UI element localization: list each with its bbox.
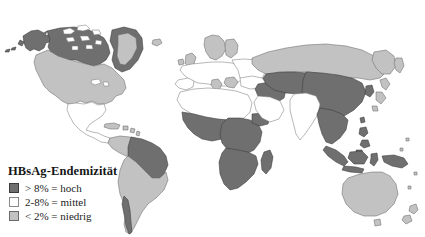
region-tasmania (374, 219, 381, 226)
region-new-zealand (402, 204, 418, 224)
legend-item-hoch: > 8% = hoch (6, 181, 156, 194)
region-scandinavia (204, 35, 226, 60)
endemicity-map-figure: HBsAg-Endemizität > 8% = hoch 2-8% = mit… (0, 0, 425, 237)
region-india (290, 93, 320, 140)
legend-item-mittel: 2-8% = mittel (6, 195, 156, 208)
region-aleutians (5, 47, 16, 52)
legend-swatch-mittel (9, 197, 19, 207)
region-southern-africa (219, 148, 258, 190)
region-iberia (175, 78, 194, 90)
legend-label-mittel: 2-8% = mittel (25, 196, 86, 208)
legend-label-hoch: > 8% = hoch (25, 182, 82, 194)
region-madagascar (261, 150, 273, 174)
legend: HBsAg-Endemizität > 8% = hoch 2-8% = mit… (6, 164, 156, 223)
region-finland-baltic (225, 39, 238, 58)
region-mexico-central-america (67, 102, 110, 143)
region-indonesia-borneo (348, 151, 368, 164)
region-papua-new-guinea (382, 155, 408, 168)
legend-swatch-hoch (9, 183, 19, 193)
region-taiwan (360, 117, 365, 123)
region-iceland (152, 39, 162, 46)
region-indonesia-java (342, 166, 364, 173)
region-kamchatka (394, 58, 404, 73)
region-indonesia-sumatra (323, 146, 348, 166)
legend-title: HBsAg-Endemizität (8, 164, 156, 178)
region-indonesia-sulawesi (370, 153, 378, 166)
legend-label-niedrig: < 2% = niedrig (25, 210, 91, 222)
region-japan (372, 78, 390, 111)
legend-swatch-niedrig (9, 211, 19, 221)
region-korea (365, 85, 374, 97)
region-australia (342, 172, 398, 216)
legend-item-niedrig: < 2% = niedrig (6, 209, 156, 222)
region-caribbean (104, 123, 140, 136)
